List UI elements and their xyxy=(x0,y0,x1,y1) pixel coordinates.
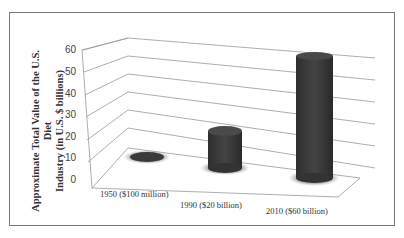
svg-text:50: 50 xyxy=(65,66,77,77)
y-axis-ticks: 60 50 40 30 20 10 0 xyxy=(65,44,77,185)
svg-text:40: 40 xyxy=(65,88,77,99)
svg-text:1990 ($20 billion): 1990 ($20 billion) xyxy=(180,200,242,210)
bar-1990 xyxy=(200,126,250,175)
svg-text:20: 20 xyxy=(65,131,77,142)
x-axis-labels: 1950 ($100 million) 1990 ($20 billion) 2… xyxy=(100,189,328,216)
svg-text:30: 30 xyxy=(65,109,77,120)
svg-text:2010 ($60 billion): 2010 ($60 billion) xyxy=(266,206,328,216)
svg-text:60: 60 xyxy=(65,44,77,55)
bar-1950 xyxy=(123,150,171,164)
svg-text:1950 ($100 million): 1950 ($100 million) xyxy=(100,189,169,199)
svg-text:0: 0 xyxy=(70,174,76,185)
chart-plot: 60 50 40 30 20 10 0 1950 ($100 million) … xyxy=(0,0,404,238)
svg-text:10: 10 xyxy=(65,152,77,163)
